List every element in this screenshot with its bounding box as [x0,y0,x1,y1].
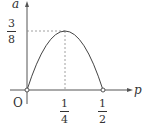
x-tick-1-4: 1 4 [60,98,69,125]
x-tick-1-2: 1 2 [98,98,107,125]
x-axis-label: p [134,84,142,96]
y-axis-arrow-icon [25,1,29,7]
origin-label: O [13,97,23,109]
y-tick-3-8: 3 8 [7,18,16,45]
origin-open-point [25,88,29,92]
y-axis-label: a [12,0,19,10]
x-axis-arrow-icon [127,88,133,92]
endpoint-open-point [101,88,105,92]
